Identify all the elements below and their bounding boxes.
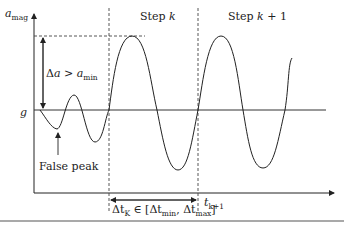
false-peak-label: False peak <box>39 160 99 173</box>
y-axis-label: amag <box>5 7 28 22</box>
t-k1-label: tk+1 <box>204 196 224 211</box>
delta-a-label: Δa > amin <box>46 67 98 82</box>
acceleration-waveform <box>40 36 292 170</box>
baseline-label: g <box>20 106 27 119</box>
delta-t-label: ΔtK ∈ [Δtmin, Δtmax] <box>112 203 216 218</box>
step-k1-label: Step k + 1 <box>228 10 287 23</box>
step-detection-diagram: amag g Δa > amin Step k Step k + 1 False… <box>0 0 344 230</box>
step-k-label: Step k <box>140 10 176 23</box>
